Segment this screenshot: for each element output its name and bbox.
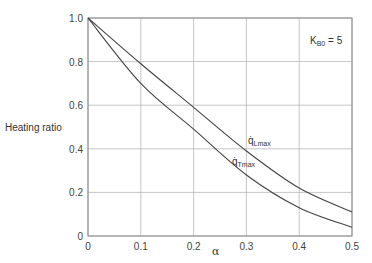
- series-label-t-sub: Tmax: [238, 161, 256, 168]
- plot-border: [88, 18, 352, 236]
- series-qL-max-line: [88, 18, 352, 212]
- svg-text:q̇Tmax: q̇Tmax: [232, 156, 256, 168]
- y-tick-label: 1.0: [69, 13, 83, 24]
- annotation-k-sub: B0: [317, 40, 326, 47]
- y-tick-label: 0.2: [69, 187, 83, 198]
- x-tick-label: 0: [85, 241, 91, 252]
- annotation-value: = 5: [325, 35, 342, 46]
- series-qT-max-line: [88, 18, 352, 227]
- svg-text:KB0 = 5: KB0 = 5: [310, 35, 343, 47]
- series-label-l: q̇Lmax: [248, 135, 271, 147]
- heating-ratio-chart: 00.10.20.30.40.5 00.20.40.60.81.0 Heatin…: [0, 0, 372, 263]
- series-label-t: q̇Tmax: [232, 156, 256, 168]
- x-tick-label: 0.3: [239, 241, 253, 252]
- x-axis-label: α: [212, 245, 220, 258]
- y-tick-label: 0: [77, 231, 83, 242]
- plot-frame: [88, 18, 352, 236]
- x-tick-label: 0.2: [187, 241, 201, 252]
- parameter-annotation: KB0 = 5: [310, 35, 343, 47]
- x-tick-label: 0.5: [345, 241, 359, 252]
- y-tick-label: 0.8: [69, 57, 83, 68]
- y-axis-ticks: 00.20.40.60.81.0: [69, 13, 83, 242]
- y-axis-label: Heating ratio: [5, 122, 62, 133]
- svg-text:q̇Lmax: q̇Lmax: [248, 135, 271, 147]
- x-tick-label: 0.1: [134, 241, 148, 252]
- x-tick-label: 0.4: [292, 241, 306, 252]
- x-axis-ticks: 00.10.20.30.40.5: [85, 241, 359, 252]
- grid-lines: [88, 18, 352, 236]
- data-series: [88, 18, 352, 227]
- y-tick-label: 0.4: [69, 144, 83, 155]
- y-tick-label: 0.6: [69, 100, 83, 111]
- series-label-l-sub: Lmax: [254, 140, 272, 147]
